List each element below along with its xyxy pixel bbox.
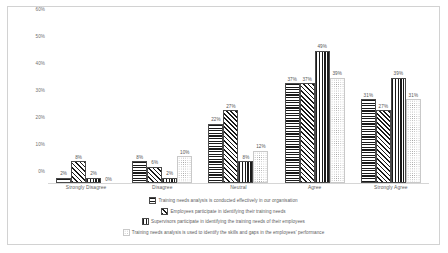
bar-value-label: 37% — [287, 77, 297, 82]
bar[interactable] — [330, 78, 345, 183]
legend-item-label: Employees participate in identifying the… — [170, 209, 285, 214]
bar[interactable] — [177, 156, 192, 183]
legend-item-label: Supervisors participate in identifying t… — [151, 219, 305, 224]
bar-item: 8% — [71, 21, 86, 183]
x-axis-tick: Disagree — [127, 185, 197, 190]
bar-value-label: 37% — [302, 77, 312, 82]
legend-item[interactable]: Supervisors participate in identifying t… — [142, 218, 305, 225]
bar-value-label: 31% — [364, 93, 374, 98]
bar-item: 10% — [177, 21, 192, 183]
bar-item: 37% — [285, 21, 300, 183]
bar[interactable] — [361, 99, 376, 183]
bar-value-label: 8% — [136, 155, 143, 160]
bar[interactable] — [132, 161, 147, 183]
bar-value-label: 27% — [379, 104, 389, 109]
bar-item: 37% — [300, 21, 315, 183]
y-axis: 60% 50% 40% 30% 20% 10% 0% — [8, 7, 48, 183]
bar-value-label: 2% — [60, 171, 67, 176]
legend-item-label: Training needs analysis is used to ident… — [132, 230, 325, 235]
bar-value-label: 6% — [151, 160, 158, 165]
legend-swatch-icon — [123, 229, 130, 236]
bar-item: 0% — [101, 21, 116, 183]
y-axis-tick: 10% — [36, 142, 46, 147]
bar[interactable] — [300, 83, 315, 183]
y-axis-tick: 50% — [36, 34, 46, 39]
x-axis-tick: Strongly Disagree — [51, 185, 121, 190]
bar-value-label: 39% — [394, 71, 404, 76]
bar-item: 2% — [162, 21, 177, 183]
bar[interactable] — [208, 124, 223, 183]
bar[interactable] — [315, 51, 330, 183]
bar[interactable] — [71, 161, 86, 183]
plot-area: 2%8%2%0%8%6%2%10%22%27%8%12%37%37%49%39%… — [48, 21, 429, 183]
bar-item: 27% — [223, 21, 238, 183]
bar-group: 37%37%49%39% — [285, 21, 345, 183]
legend-swatch-icon — [149, 197, 156, 204]
bar-item: 27% — [376, 21, 391, 183]
bar-value-label: 31% — [409, 93, 419, 98]
bar-value-label: 12% — [256, 144, 266, 149]
bar-item: 8% — [132, 21, 147, 183]
bar-value-label: 2% — [166, 171, 173, 176]
legend-item[interactable]: Training needs analysis is conducted eff… — [149, 197, 297, 204]
bar-value-label: 0% — [105, 177, 112, 182]
bar-item: 12% — [253, 21, 268, 183]
bar-item: 2% — [56, 21, 71, 183]
x-axis-tick: Neutral — [203, 185, 273, 190]
x-axis-line — [48, 183, 429, 184]
legend-item[interactable]: Training needs analysis is used to ident… — [123, 229, 325, 236]
x-axis: Strongly DisagreeDisagreeNeutralAgreeStr… — [48, 185, 429, 190]
bar-item: 2% — [86, 21, 101, 183]
legend-item[interactable]: Employees participate in identifying the… — [161, 208, 285, 215]
bar[interactable] — [238, 161, 253, 183]
legend-swatch-icon — [142, 218, 149, 225]
chart-container: 60% 50% 40% 30% 20% 10% 0% 2%8%2%0%8%6%2… — [7, 6, 440, 245]
bar-group: 22%27%8%12% — [208, 21, 268, 183]
y-axis-tick: 30% — [36, 88, 46, 93]
bar-item: 31% — [361, 21, 376, 183]
bar-value-label: 49% — [317, 44, 327, 49]
bar-item: 6% — [147, 21, 162, 183]
bar-value-label: 8% — [75, 155, 82, 160]
bar-item: 31% — [406, 21, 421, 183]
x-axis-tick: Agree — [280, 185, 350, 190]
legend-item-label: Training needs analysis is conducted eff… — [158, 198, 297, 203]
bar-item: 22% — [208, 21, 223, 183]
bar[interactable] — [285, 83, 300, 183]
bar-value-label: 10% — [180, 150, 190, 155]
bar[interactable] — [253, 151, 268, 183]
bar[interactable] — [376, 110, 391, 183]
legend-swatch-icon — [161, 208, 168, 215]
bar-value-label: 39% — [332, 71, 342, 76]
bar[interactable] — [223, 110, 238, 183]
bar[interactable] — [406, 99, 421, 183]
bar[interactable] — [391, 78, 406, 183]
bar[interactable] — [147, 167, 162, 183]
bar-group: 31%27%39%31% — [361, 21, 421, 183]
bar-group: 8%6%2%10% — [132, 21, 192, 183]
bar-item: 49% — [315, 21, 330, 183]
bar-item: 39% — [391, 21, 406, 183]
bar-group: 2%8%2%0% — [56, 21, 116, 183]
x-axis-tick: Strongly Agree — [356, 185, 426, 190]
bar-item: 8% — [238, 21, 253, 183]
y-axis-tick: 40% — [36, 61, 46, 66]
y-axis-tick: 0% — [38, 169, 45, 174]
bar-value-label: 8% — [243, 155, 250, 160]
bar-value-label: 2% — [90, 171, 97, 176]
bar-value-label: 22% — [211, 117, 221, 122]
bar-item: 39% — [330, 21, 345, 183]
y-axis-tick: 20% — [36, 115, 46, 120]
y-axis-tick: 60% — [36, 7, 46, 12]
bar-value-label: 27% — [226, 104, 236, 109]
chart-legend: Training needs analysis is conducted eff… — [8, 197, 439, 236]
